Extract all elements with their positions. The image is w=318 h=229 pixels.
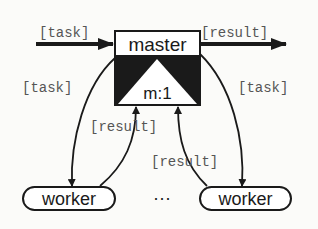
output-result-label: [result] — [201, 25, 268, 41]
master-worker-diagram: [task] [result] master m:1 [task] [resul… — [0, 0, 318, 229]
ratio-label: m:1 — [143, 84, 171, 103]
left-task-label: [task] — [22, 80, 72, 96]
right-result-edge — [178, 107, 207, 186]
input-task-label: [task] — [39, 25, 89, 41]
left-result-label: [result] — [90, 119, 157, 135]
right-task-label: [task] — [238, 80, 288, 96]
worker-right-label: worker — [217, 189, 272, 209]
worker-left-label: worker — [41, 189, 96, 209]
ellipsis: ··· — [153, 188, 171, 208]
right-result-label: [result] — [151, 154, 218, 170]
master-label: master — [128, 34, 187, 55]
